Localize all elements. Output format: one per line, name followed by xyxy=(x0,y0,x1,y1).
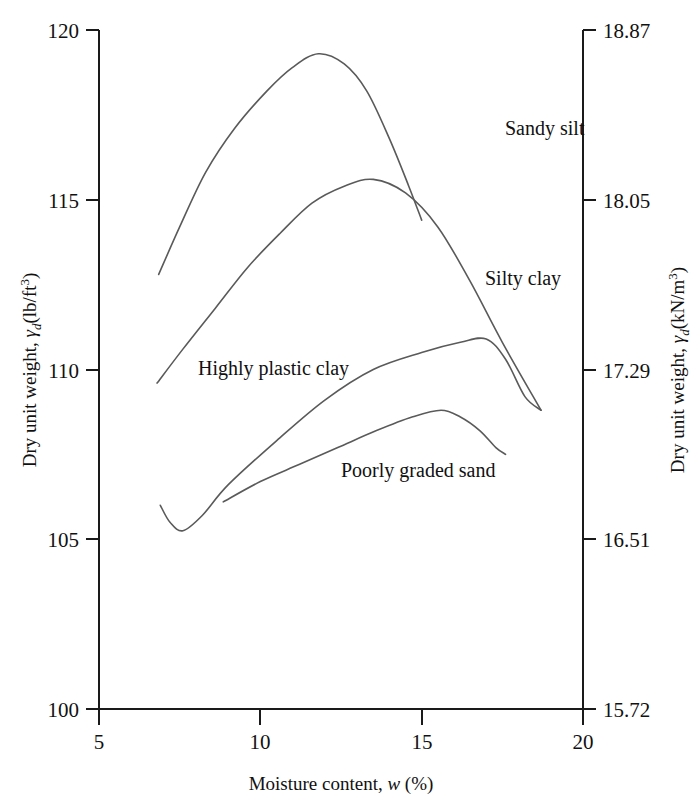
y-right-title-close: ) xyxy=(667,267,689,273)
svg-text:Dry unit weight, γd(kN/m3): Dry unit weight, γd(kN/m3) xyxy=(665,267,692,473)
y-tick-label-left-120: 120 xyxy=(48,19,80,43)
x-tick-label-20: 20 xyxy=(573,730,594,754)
y-axis-right-title: Dry unit weight, γd(kN/m3) xyxy=(665,267,692,473)
series-labels-group: Sandy silt Silty clay Highly plastic cla… xyxy=(198,117,585,482)
x-tick-label-10: 10 xyxy=(250,730,271,754)
y-tick-label-right-1729: 17.29 xyxy=(603,359,650,383)
y-tick-label-right-1887: 18.87 xyxy=(603,19,650,43)
y-tick-label-left-100: 100 xyxy=(48,698,80,722)
y-left-title-close: ) xyxy=(19,273,41,279)
series-label-poorly-graded-sand: Poorly graded sand xyxy=(341,459,495,482)
x-axis-title-units: (%) xyxy=(400,773,433,795)
x-tick-label-15: 15 xyxy=(412,730,433,754)
y-axis-left-title: Dry unit weight, γd(lb/ft3) xyxy=(17,273,44,468)
series-label-silty-clay: Silty clay xyxy=(485,267,561,290)
y-tick-label-left-110: 110 xyxy=(48,359,79,383)
x-tick-label-5: 5 xyxy=(94,730,105,754)
chart-svg: 120 115 110 105 100 18.87 18.05 17.29 16… xyxy=(0,0,700,810)
svg-text:Dry unit weight, γd(lb/ft3): Dry unit weight, γd(lb/ft3) xyxy=(17,273,44,468)
x-axis-title: Moisture content, w (%) xyxy=(249,773,434,795)
y-right-title-main: Dry unit weight, xyxy=(667,343,688,473)
series-label-highly-plastic-clay: Highly plastic clay xyxy=(198,357,349,380)
y-tick-label-right-1805: 18.05 xyxy=(603,189,650,213)
x-axis-title-main: Moisture content, xyxy=(249,773,388,794)
y-axis-left-ticks: 120 115 110 105 100 xyxy=(48,19,100,722)
y-tick-label-left-115: 115 xyxy=(48,189,79,213)
chart-figure: 120 115 110 105 100 18.87 18.05 17.29 16… xyxy=(0,0,700,810)
x-axis-ticks: 5 10 15 20 xyxy=(94,709,594,754)
y-tick-label-right-1651: 16.51 xyxy=(603,528,650,552)
y-tick-label-left-105: 105 xyxy=(48,528,80,552)
svg-text:Moisture content, w (%): Moisture content, w (%) xyxy=(249,773,434,795)
y-right-title-units: (kN/m xyxy=(667,279,689,329)
curve-poorly-graded-sand xyxy=(223,410,505,502)
y-left-title-main: Dry unit weight, xyxy=(19,338,40,468)
x-axis-title-var: w xyxy=(387,773,400,794)
curve-sandy-silt xyxy=(159,54,422,275)
y-axis-right-ticks: 18.87 18.05 17.29 16.51 15.72 xyxy=(583,19,650,722)
y-tick-label-right-1572: 15.72 xyxy=(603,698,650,722)
series-label-sandy-silt: Sandy silt xyxy=(505,117,585,140)
y-left-title-units: (lb/ft xyxy=(19,285,41,324)
